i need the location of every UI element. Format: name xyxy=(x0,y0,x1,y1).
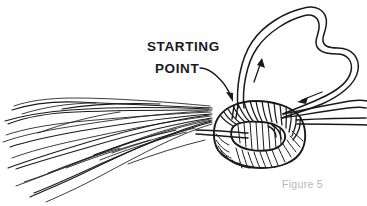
starting-point-annotation: STARTING POINT xyxy=(147,39,233,102)
starting-point-label-line2: POINT xyxy=(155,61,199,76)
figure-drawing: STARTING POINT Figure 5 xyxy=(0,0,367,206)
direction-arrow-up xyxy=(254,58,265,82)
figure-illustration: STARTING POINT Figure 5 xyxy=(0,0,367,206)
starting-point-label-line1: STARTING xyxy=(147,39,220,54)
direction-arrow-down xyxy=(297,92,322,104)
leader-arrow xyxy=(226,92,233,102)
leader-line xyxy=(200,68,231,96)
fiber-bundle xyxy=(3,98,212,202)
figure-caption: Figure 5 xyxy=(282,178,323,190)
